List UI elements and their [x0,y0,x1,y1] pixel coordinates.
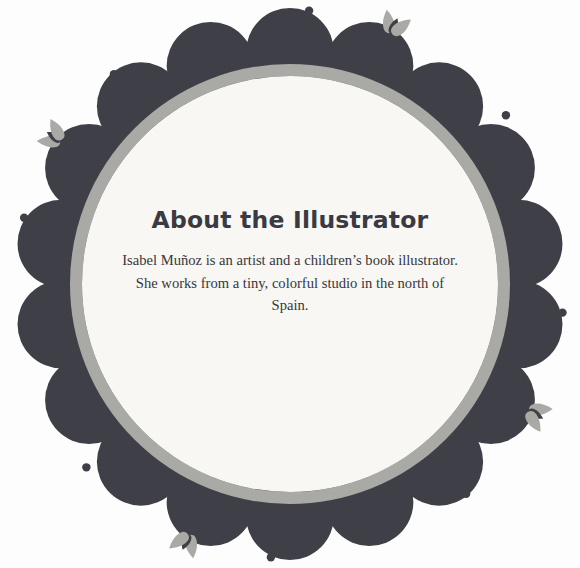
accent-dot [305,6,313,14]
accent-dot [20,214,28,222]
accent-dot [502,111,510,119]
illustrator-bio-page: About the Illustrator Isabel Muñoz is an… [0,0,580,568]
accent-dot [558,308,566,316]
accent-dot [462,490,470,498]
decorative-floral-medallion [0,0,580,568]
accent-dot [110,70,118,78]
accent-dot [267,553,275,561]
medallion-inner-disc [82,76,498,492]
accent-dot [82,463,90,471]
